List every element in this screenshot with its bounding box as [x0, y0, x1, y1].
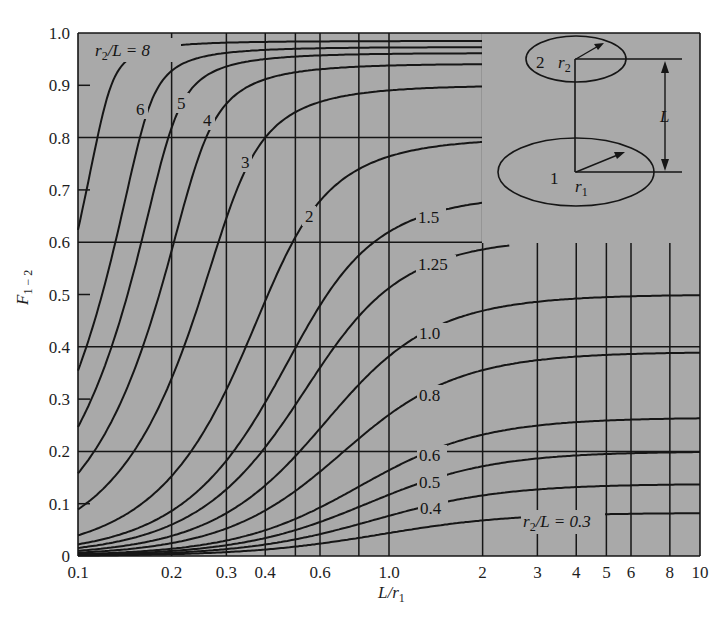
- curve-label-3: 3: [241, 153, 250, 172]
- y-tick-label: 0.5: [49, 286, 70, 305]
- separation-label: L: [659, 107, 669, 126]
- curve-label-4: 4: [203, 111, 212, 130]
- y-tick-label: 0.3: [49, 390, 70, 409]
- x-tick-label: 10: [692, 563, 709, 582]
- curve-label-0-8: 0.8: [419, 386, 440, 405]
- y-tick-label: 0.2: [49, 442, 70, 461]
- y-tick-label: 0.6: [49, 233, 70, 252]
- y-tick-label: 0.1: [49, 495, 70, 514]
- curve-label-2: 2: [305, 207, 314, 226]
- curve-label-1-5: 1.5: [418, 208, 439, 227]
- x-tick-label: 4: [572, 563, 581, 582]
- y-tick-label: 0.9: [49, 76, 70, 95]
- curve-label-0-4: 0.4: [420, 499, 442, 518]
- curve-label-0-5: 0.5: [419, 473, 440, 492]
- curve-label-6: 6: [136, 100, 145, 119]
- curve-label-1-25: 1.25: [418, 255, 448, 274]
- curve-label-1-0: 1.0: [419, 324, 440, 343]
- disk-1-number: 1: [550, 169, 559, 188]
- view-factor-chart: 2 r2 1 r1 L 00.10.20.30.40.50.60.70.80.9…: [0, 0, 727, 626]
- y-axis-tick-labels: 00.10.20.30.40.50.60.70.80.91.0: [49, 24, 71, 566]
- x-tick-label: 0.6: [309, 563, 330, 582]
- x-axis-title: L/r1: [377, 583, 405, 605]
- x-tick-label: 0.2: [161, 563, 182, 582]
- disk-2-number: 2: [536, 53, 545, 72]
- y-tick-label: 1.0: [49, 24, 70, 43]
- y-tick-label: 0.8: [49, 129, 70, 148]
- x-tick-label: 8: [666, 563, 675, 582]
- y-tick-label: 0.7: [49, 181, 71, 200]
- geometry-inset: 2 r2 1 r1 L: [482, 33, 700, 243]
- x-tick-label: 3: [533, 563, 542, 582]
- y-axis-title: F1 − 2: [13, 270, 35, 306]
- x-axis-tick-labels: 0.10.20.30.40.61.023456810: [67, 563, 708, 582]
- x-tick-label: 5: [602, 563, 611, 582]
- x-tick-label: 2: [478, 563, 487, 582]
- x-tick-label: 0.1: [67, 563, 88, 582]
- curve-label-0-6: 0.6: [419, 446, 440, 465]
- y-tick-label: 0.4: [49, 338, 71, 357]
- x-tick-label: 0.4: [255, 563, 277, 582]
- x-tick-label: 1.0: [378, 563, 399, 582]
- x-tick-label: 6: [627, 563, 636, 582]
- curve-label-5: 5: [177, 94, 186, 113]
- x-tick-label: 0.3: [216, 563, 237, 582]
